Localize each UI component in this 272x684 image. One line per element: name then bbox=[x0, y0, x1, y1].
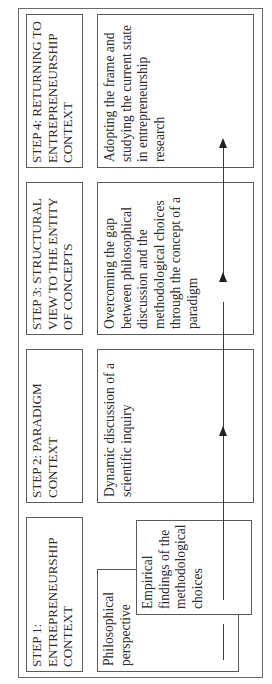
step3-content-box: Overcoming the gap between philosophical… bbox=[97, 182, 254, 335]
step2-header: STEP 2: PARADIGM CONTEXT bbox=[26, 349, 83, 503]
step3-header: STEP 3: STRUCTURAL VIEW TO THE ENTITY OF… bbox=[26, 182, 83, 335]
step4-header: STEP 4: RETURNING TO ENTREPRENEURSHIP CO… bbox=[26, 14, 83, 168]
flow-line-segment bbox=[223, 146, 224, 214]
step1-header: STEP 1: ENTREPRENEURSHIP CONTEXT bbox=[26, 517, 83, 672]
arrowhead-icon bbox=[219, 426, 227, 436]
step2-content-box: Dynamic discussion of a scientific inqui… bbox=[97, 349, 254, 503]
arrowhead-icon bbox=[219, 138, 227, 148]
step4-content-box: Adopting the frame and studying the curr… bbox=[97, 14, 254, 168]
flow-line-segment bbox=[223, 624, 224, 660]
flow-line-segment bbox=[223, 406, 224, 426]
arrowhead-icon bbox=[219, 272, 227, 282]
diagram-canvas: STEP 1: ENTREPRENEURSHIP CONTEXT STEP 2:… bbox=[0, 0, 272, 684]
flow-line-segment bbox=[223, 308, 224, 384]
empirical-findings-box: Empirical findings of the methodological… bbox=[136, 520, 252, 615]
